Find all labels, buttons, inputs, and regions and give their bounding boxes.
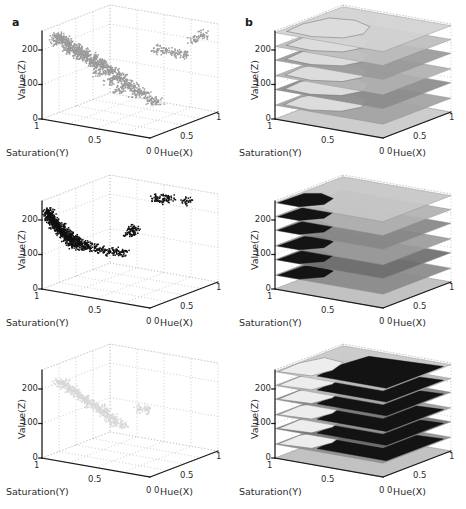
y-tick-0.5: 0.5 <box>321 135 335 145</box>
x-tick-0.5: 0.5 <box>180 470 194 480</box>
z-tick-100: 100 <box>12 417 38 427</box>
z-tick-200: 200 <box>245 44 271 54</box>
z-tick-100: 100 <box>12 78 38 88</box>
x-axis-label: Hue(X) <box>393 486 426 497</box>
y-axis-label: Saturation(Y) <box>6 147 69 158</box>
x-axis-label: Hue(X) <box>160 317 193 328</box>
y-tick-0.5: 0.5 <box>321 305 335 315</box>
y-tick-1: 1 <box>34 291 39 301</box>
y-axis-label: Saturation(Y) <box>239 486 302 497</box>
x-tick-0: 0 <box>387 146 392 156</box>
plot-panel-row3-b: Value(Z)010020010.5000.51Saturation(Y)Hu… <box>233 339 466 509</box>
y-tick-0: 0 <box>379 485 384 495</box>
y-tick-1: 1 <box>267 121 272 131</box>
x-tick-1: 1 <box>216 282 221 292</box>
x-axis-label: Hue(X) <box>393 147 426 158</box>
x-tick-0: 0 <box>154 146 159 156</box>
z-tick-200: 200 <box>245 214 271 224</box>
x-tick-0: 0 <box>387 316 392 326</box>
x-tick-1: 1 <box>216 112 221 122</box>
x-tick-0.5: 0.5 <box>413 301 427 311</box>
y-tick-1: 1 <box>34 121 39 131</box>
x-tick-0.5: 0.5 <box>413 131 427 141</box>
y-tick-0: 0 <box>146 146 151 156</box>
x-tick-1: 1 <box>449 282 454 292</box>
y-axis-label: Saturation(Y) <box>6 486 69 497</box>
x-tick-1: 1 <box>216 451 221 461</box>
plot-panel-row2-a: Value(Z)010020010.5000.51Saturation(Y)Hu… <box>0 170 233 340</box>
plot-panel-row3-a: Value(Z)010020010.5000.51Saturation(Y)Hu… <box>0 339 233 509</box>
y-tick-1: 1 <box>34 460 39 470</box>
y-tick-0.5: 0.5 <box>88 305 102 315</box>
z-tick-100: 100 <box>12 248 38 258</box>
z-tick-100: 100 <box>245 248 271 258</box>
x-tick-1: 1 <box>449 112 454 122</box>
y-axis-label: Saturation(Y) <box>239 147 302 158</box>
z-tick-100: 100 <box>245 78 271 88</box>
x-tick-0: 0 <box>154 316 159 326</box>
y-tick-0.5: 0.5 <box>321 474 335 484</box>
y-tick-1: 1 <box>267 460 272 470</box>
x-tick-0: 0 <box>154 485 159 495</box>
y-tick-0: 0 <box>379 146 384 156</box>
z-tick-200: 200 <box>245 383 271 393</box>
y-tick-1: 1 <box>267 291 272 301</box>
x-axis-label: Hue(X) <box>160 147 193 158</box>
figure-root: aValue(Z)010020010.5000.51Saturation(Y)H… <box>0 0 466 509</box>
y-axis-label: Saturation(Y) <box>6 317 69 328</box>
y-tick-0.5: 0.5 <box>88 474 102 484</box>
x-tick-1: 1 <box>449 451 454 461</box>
x-tick-0.5: 0.5 <box>413 470 427 480</box>
z-tick-200: 200 <box>12 383 38 393</box>
z-tick-200: 200 <box>12 44 38 54</box>
plot-panel-row2-b: Value(Z)010020010.5000.51Saturation(Y)Hu… <box>233 170 466 340</box>
y-tick-0: 0 <box>379 316 384 326</box>
y-tick-0: 0 <box>146 316 151 326</box>
y-axis-label: Saturation(Y) <box>239 317 302 328</box>
x-tick-0: 0 <box>387 485 392 495</box>
y-tick-0: 0 <box>146 485 151 495</box>
plot-panel-row1-b: bValue(Z)010020010.5000.51Saturation(Y)H… <box>233 0 466 170</box>
x-axis-label: Hue(X) <box>393 317 426 328</box>
y-tick-0.5: 0.5 <box>88 135 102 145</box>
x-axis-label: Hue(X) <box>160 486 193 497</box>
x-tick-0.5: 0.5 <box>180 131 194 141</box>
plot-panel-row1-a: aValue(Z)010020010.5000.51Saturation(Y)H… <box>0 0 233 170</box>
x-tick-0.5: 0.5 <box>180 301 194 311</box>
z-tick-200: 200 <box>12 214 38 224</box>
z-tick-100: 100 <box>245 417 271 427</box>
